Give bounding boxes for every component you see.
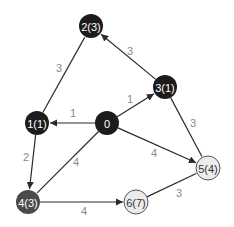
edge-0-3 bbox=[117, 94, 154, 117]
edge-weight-label: 3 bbox=[127, 45, 133, 57]
edge-weight-label: 3 bbox=[190, 117, 196, 129]
edge-weight-label: 3 bbox=[176, 187, 182, 199]
node-label: 2(3) bbox=[81, 21, 101, 33]
node-label: 1(1) bbox=[27, 118, 47, 130]
edge-weight-label: 4 bbox=[73, 156, 79, 168]
edge-weight-label: 4 bbox=[151, 147, 157, 159]
edge-weight-label: 1 bbox=[70, 107, 76, 119]
node-label: 5(4) bbox=[198, 163, 218, 175]
edge-1-4 bbox=[29, 135, 35, 189]
edge-0-4 bbox=[37, 131, 98, 192]
node-label: 6(7) bbox=[126, 197, 146, 209]
node-4: 4(3) bbox=[16, 190, 40, 214]
node-5: 5(4) bbox=[196, 156, 220, 180]
edge-weight-label: 3 bbox=[56, 62, 62, 74]
edge-weight-label: 1 bbox=[127, 93, 133, 105]
edge-1-2 bbox=[43, 37, 85, 112]
node-label: 3(1) bbox=[155, 82, 175, 94]
graph-canvas: 1144332343 01(1)2(3)3(1)4(3)5(4)6(7) bbox=[0, 0, 234, 227]
node-1: 1(1) bbox=[25, 111, 49, 135]
node-6: 6(7) bbox=[124, 190, 148, 214]
node-label: 0 bbox=[104, 118, 110, 130]
node-0: 0 bbox=[95, 111, 119, 135]
node-label: 4(3) bbox=[18, 197, 38, 209]
edge-weight-label: 2 bbox=[23, 151, 29, 163]
node-3: 3(1) bbox=[153, 75, 177, 99]
edge-6-5 bbox=[147, 174, 196, 197]
edge-weight-label: 4 bbox=[81, 205, 87, 217]
node-2: 2(3) bbox=[79, 14, 103, 38]
edge-3-5 bbox=[171, 98, 202, 157]
